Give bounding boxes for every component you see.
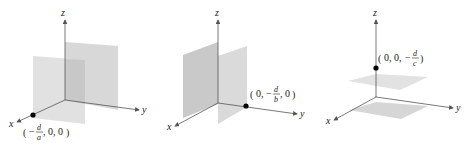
plane-y-constant [218, 46, 247, 124]
x-axis-label: x [166, 121, 172, 132]
svg-text:c: c [413, 59, 417, 68]
z-axis-label: z [372, 7, 377, 18]
y-axis-label: y [455, 102, 461, 113]
plane-overlap [65, 59, 85, 104]
x-axis-label: x [325, 115, 331, 126]
point-label: ( − d a , 0, 0 ) [23, 123, 69, 142]
xy-reference-plane [349, 102, 428, 119]
svg-text:(: ( [378, 53, 382, 65]
svg-text:): ) [292, 89, 295, 101]
svg-text:−: − [266, 88, 272, 99]
svg-text:d: d [37, 123, 42, 132]
point-label: ( 0, − d b , 0 ) [250, 85, 295, 104]
point-label: ( 0, 0, − d c ) [378, 49, 423, 68]
panel-y-plane: z x y ( 0, − d b , 0 ) [166, 7, 305, 132]
intercept-point [373, 65, 378, 70]
svg-text:−: − [29, 126, 35, 137]
svg-text:0, 0,: 0, 0, [384, 52, 402, 63]
svg-text:, 0: , 0 [280, 88, 290, 99]
svg-text:d: d [274, 85, 279, 94]
z-axis-label: z [214, 7, 219, 18]
svg-text:a: a [37, 133, 41, 142]
svg-text:d: d [413, 49, 418, 58]
y-axis-label: y [299, 108, 305, 119]
plane-z-constant [348, 74, 428, 90]
intercept-point [243, 103, 248, 108]
intercept-point [30, 112, 35, 117]
z-axis-label: z [60, 7, 65, 18]
diagram-stage: z x y ( − d a , 0, 0 ) z x y ( 0, [0, 0, 470, 145]
svg-text:): ) [420, 53, 423, 65]
y-axis-label: y [141, 104, 147, 115]
svg-text:b: b [274, 95, 278, 104]
panel-x-plane: z x y ( − d a , 0, 0 ) [8, 7, 147, 142]
xz-reference-plane [183, 42, 218, 118]
svg-text:0,: 0, [256, 88, 264, 99]
svg-text:, 0, 0: , 0, 0 [43, 126, 63, 137]
svg-text:−: − [405, 52, 411, 63]
panel-z-plane: z x y ( 0, 0, − d c ) [325, 7, 461, 126]
svg-text:(: ( [23, 127, 27, 139]
x-axis-label: x [8, 118, 14, 129]
svg-text:): ) [66, 127, 69, 139]
svg-text:(: ( [250, 89, 254, 101]
